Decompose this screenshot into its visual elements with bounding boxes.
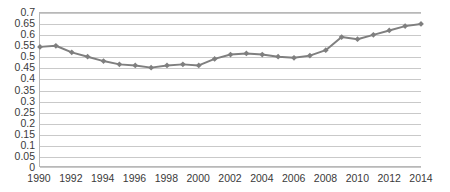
y-axis: 00.050.10.150.20.250.30.350.40.450.50.55… (0, 0, 37, 192)
data-point-marker (243, 51, 249, 57)
data-point-marker (85, 54, 91, 60)
x-tick-label: 1998 (155, 173, 178, 184)
x-tick-label: 2000 (186, 173, 209, 184)
data-point-marker (148, 65, 154, 71)
y-tick-label: 0.25 (15, 106, 35, 117)
y-tick-label: 0.6 (20, 29, 35, 40)
x-tick-label: 2002 (218, 173, 241, 184)
y-tick-label: 0.65 (15, 18, 35, 29)
line-chart: 00.050.10.150.20.250.30.350.40.450.50.55… (0, 0, 450, 192)
data-point-marker (116, 62, 122, 68)
data-point-marker (291, 55, 297, 61)
data-point-marker (180, 62, 186, 68)
data-point-marker (386, 28, 392, 34)
plot-area (39, 12, 421, 167)
data-point-marker (275, 54, 281, 60)
data-point-marker (402, 23, 408, 29)
y-tick-label: 0.3 (20, 95, 35, 106)
y-tick-label: 0.35 (15, 84, 35, 95)
x-tick-label: 2008 (314, 173, 337, 184)
series-markers (37, 21, 424, 70)
data-point-marker (132, 63, 138, 69)
data-point-marker (196, 63, 202, 69)
y-tick-label: 0.7 (20, 7, 35, 18)
x-tick-label: 2006 (282, 173, 305, 184)
y-tick-label: 0.5 (20, 51, 35, 62)
x-tick-label: 1996 (123, 173, 146, 184)
x-tick-label: 1994 (91, 173, 114, 184)
x-tick-label: 2010 (346, 173, 369, 184)
data-point-marker (53, 43, 59, 49)
data-point-marker (259, 52, 265, 58)
data-point-marker (418, 21, 424, 27)
x-tick-label: 2012 (377, 173, 400, 184)
x-tick-label: 2004 (250, 173, 273, 184)
data-point-marker (307, 53, 313, 59)
y-tick-label: 0.4 (20, 73, 35, 84)
gridline (40, 167, 421, 168)
data-point-marker (355, 36, 361, 42)
x-axis: 1990199219941996199820002002200420062008… (0, 171, 450, 192)
y-tick-label: 0.15 (15, 129, 35, 140)
y-tick-label: 0.55 (15, 40, 35, 51)
x-tick-label: 2014 (409, 173, 432, 184)
y-tick-label: 0.45 (15, 62, 35, 73)
x-tick-label: 1990 (27, 173, 50, 184)
data-point-marker (164, 63, 170, 69)
y-tick-label: 0.1 (20, 140, 35, 151)
series-layer (40, 13, 421, 166)
data-point-marker (101, 58, 107, 64)
data-point-marker (212, 56, 218, 62)
data-point-marker (69, 49, 75, 55)
series-line (40, 24, 421, 68)
y-tick-label: 0.05 (15, 151, 35, 162)
x-tick-label: 1992 (59, 173, 82, 184)
y-tick-label: 0.2 (20, 117, 35, 128)
data-point-marker (228, 52, 234, 58)
data-point-marker (37, 44, 43, 50)
data-point-marker (370, 32, 376, 38)
